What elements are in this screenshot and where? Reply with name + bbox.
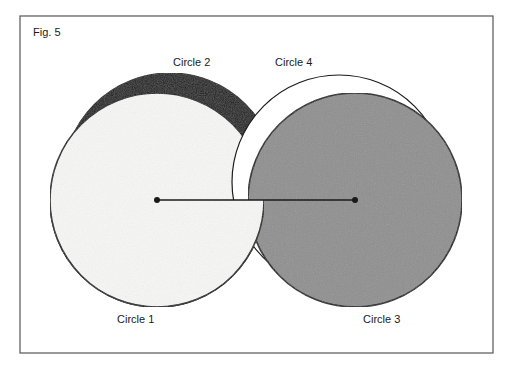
circle-3-label: Circle 3 <box>363 313 400 325</box>
circle-1-label: Circle 1 <box>117 313 154 325</box>
figure-5-diagram: Fig. 5 Circle 2 Circle 4 Circle 1 Circle… <box>0 0 511 372</box>
circle-3-center-dot <box>352 197 358 203</box>
circle-4-label: Circle 4 <box>275 56 312 68</box>
figure-title: Fig. 5 <box>33 26 61 38</box>
circle-2-label: Circle 2 <box>173 56 210 68</box>
circle-1-center-dot <box>154 197 160 203</box>
